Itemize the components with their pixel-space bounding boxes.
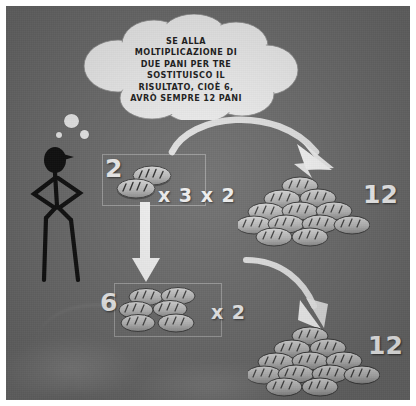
background-cloud-mid <box>126 358 296 400</box>
result-count-top: 12 <box>363 182 398 207</box>
thought-bubble: SE ALLA MOLTIPLICAZIONE DI DUE PANI PER … <box>66 14 306 120</box>
arrow-vertical <box>130 202 162 288</box>
stick-figure-shape <box>24 146 110 284</box>
operator-bottom: x 2 <box>211 303 246 322</box>
thought-dot-small <box>56 132 62 138</box>
background-cloud-left <box>6 334 146 394</box>
operator-top: x 3 x 2 <box>158 186 236 205</box>
stick-figure-thinking <box>24 146 110 284</box>
thought-bubble-text: SE ALLA MOLTIPLICAZIONE DI DUE PANI PER … <box>66 36 306 104</box>
comic-panel: SE ALLA MOLTIPLICAZIONE DI DUE PANI PER … <box>6 6 410 400</box>
thought-dot-medium <box>80 130 89 139</box>
thought-dot-large <box>64 114 79 128</box>
result-count-bottom: 12 <box>368 333 403 358</box>
bread-pile-top-shape <box>238 174 370 248</box>
bread-pile-top <box>238 174 370 248</box>
arrow-vertical-shape <box>130 202 162 288</box>
